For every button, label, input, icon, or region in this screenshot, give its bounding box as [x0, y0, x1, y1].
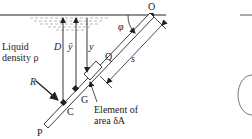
label-ybar: ȳ [67, 41, 73, 52]
label-s: s [131, 53, 135, 64]
label-C: C [67, 106, 74, 117]
label-liquid: Liquid [2, 41, 29, 52]
label-density: density ρ [2, 52, 38, 63]
label-Q: Q [105, 51, 113, 62]
label-P: P [37, 127, 43, 138]
label-phi: φ [118, 21, 124, 32]
label-element: Element of [94, 104, 139, 115]
label-y: y [88, 41, 94, 52]
second-figure-partial [238, 15, 252, 115]
resultant-force-arrow [36, 81, 58, 100]
element-leader [90, 82, 97, 102]
label-O: O [148, 1, 155, 12]
label-D: D [53, 41, 62, 52]
label-R: R [29, 76, 36, 87]
label-element-area: area δA [94, 115, 126, 126]
water-hatching [30, 18, 110, 30]
submerged-plate-diagram: O φ D ȳ y G [0, 0, 252, 139]
label-G: G [81, 94, 88, 105]
